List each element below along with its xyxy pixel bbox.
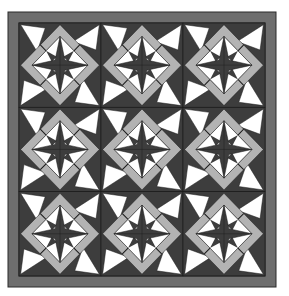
quilt-illustration bbox=[0, 0, 289, 296]
quilt-blocks bbox=[19, 23, 265, 276]
